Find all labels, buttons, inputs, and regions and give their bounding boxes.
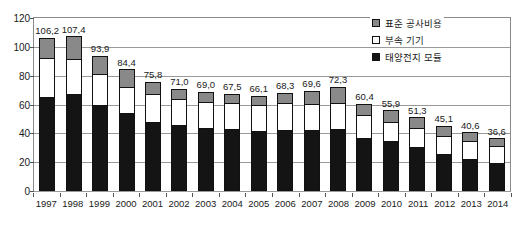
bar-total-label: 45,1 (435, 114, 454, 124)
bar-total-label: 84,4 (117, 58, 136, 68)
x-tick-label: 1999 (86, 193, 113, 215)
bar-segment-module (330, 129, 346, 191)
legend-label-standard: 표준 공사비용 (385, 16, 442, 30)
bar-slot: 106,2 (34, 18, 60, 191)
bar-stack[interactable]: 68,3 (277, 93, 293, 191)
legend-item-standard[interactable]: 표준 공사비용 (370, 16, 444, 30)
black-square-icon (372, 53, 380, 61)
x-tick-mark (378, 193, 379, 197)
bar-segment-standard (409, 117, 425, 128)
legend-item-module[interactable]: 태양전지 모듈 (370, 50, 444, 64)
bar-stack[interactable]: 69,6 (304, 91, 320, 191)
bar-stack[interactable]: 69,0 (198, 92, 214, 191)
bar-segment-accessory (145, 94, 161, 121)
bar-segment-accessory (330, 103, 346, 129)
bar-slot: 68,3 (272, 18, 298, 191)
bar-segment-standard (119, 69, 135, 87)
bar-stack[interactable]: 107,4 (66, 36, 82, 191)
bar-segment-accessory (66, 59, 82, 94)
x-tick-label: 2009 (352, 193, 379, 215)
bar-segment-module (356, 138, 372, 191)
bar-segment-standard (39, 38, 55, 58)
bar-stack[interactable]: 72,3 (330, 87, 346, 191)
x-tick-label: 1997 (33, 193, 60, 215)
x-tick-mark (139, 193, 140, 197)
bar-segment-module (383, 141, 399, 191)
gray-square-icon (372, 19, 380, 27)
bar-segment-accessory (39, 58, 55, 97)
bar-stack[interactable]: 67,5 (224, 94, 240, 191)
bar-segment-standard (277, 93, 293, 104)
x-tick-mark (60, 193, 61, 197)
bar-stack[interactable]: 66,1 (251, 96, 267, 191)
x-tick-mark (219, 193, 220, 197)
x-tick-label: 1998 (60, 193, 87, 215)
white-square-icon (372, 36, 380, 44)
bar-segment-accessory (251, 105, 267, 132)
legend-label-module: 태양전지 모듈 (385, 50, 442, 64)
bar-segment-module (198, 128, 214, 191)
bar-segment-module (39, 97, 55, 191)
x-tick-mark (511, 193, 512, 197)
legend: 표준 공사비용 부속 기기 태양전지 모듈 (370, 16, 444, 64)
x-tick-mark (431, 193, 432, 197)
bar-segment-accessory (356, 115, 372, 138)
bar-slot: 71,0 (166, 18, 192, 191)
bar-total-label: 71,0 (170, 77, 189, 87)
bar-segment-standard (224, 94, 240, 103)
bar-total-label: 93,9 (91, 44, 110, 54)
bar-stack[interactable]: 75,8 (145, 82, 161, 191)
x-tick-mark (113, 193, 114, 197)
x-tick-label: 2006 (272, 193, 299, 215)
bar-segment-module (489, 163, 505, 191)
bar-total-label: 72,3 (329, 75, 348, 85)
x-tick-label: 2008 (325, 193, 352, 215)
bar-stack[interactable]: 51,3 (409, 117, 425, 191)
bar-segment-module (171, 125, 187, 191)
x-axis: 1997199819992000200120022003200420052006… (33, 193, 511, 215)
bar-total-label: 75,8 (144, 70, 163, 80)
bar-stack[interactable]: 93,9 (92, 56, 108, 191)
bar-segment-module (462, 159, 478, 191)
bar-slot: 84,4 (113, 18, 139, 191)
x-tick-mark (86, 193, 87, 197)
bar-stack[interactable]: 84,4 (119, 69, 135, 191)
bar-segment-module (251, 131, 267, 191)
bar-stack[interactable]: 36,6 (489, 138, 505, 191)
bar-stack[interactable]: 60,4 (356, 104, 372, 191)
bar-total-label: 106,2 (35, 26, 59, 36)
bar-total-label: 51,3 (408, 106, 427, 116)
bar-segment-standard (171, 89, 187, 100)
bar-segment-module (277, 130, 293, 191)
bar-stack[interactable]: 45,1 (436, 126, 452, 191)
x-tick-label: 2000 (113, 193, 140, 215)
bar-segment-standard (198, 92, 214, 102)
bar-segment-accessory (224, 103, 240, 129)
legend-item-accessory[interactable]: 부속 기기 (370, 33, 444, 47)
bar-total-label: 66,1 (249, 84, 268, 94)
bar-slot: 69,0 (193, 18, 219, 191)
x-tick-mark (484, 193, 485, 197)
x-tick-mark (352, 193, 353, 197)
x-tick-mark (458, 193, 459, 197)
bar-stack[interactable]: 55,9 (383, 110, 399, 191)
x-tick-mark (33, 193, 34, 197)
stacked-bar-chart: 020406080100120 106,2107,493,984,475,871… (0, 0, 521, 228)
bar-stack[interactable]: 40,6 (462, 132, 478, 191)
bar-slot: 75,8 (140, 18, 166, 191)
y-tick-mark (30, 191, 34, 192)
bar-segment-module (119, 113, 135, 191)
x-tick-label: 2011 (405, 193, 432, 215)
x-tick-label: 2010 (378, 193, 405, 215)
legend-label-accessory: 부속 기기 (385, 33, 424, 47)
bar-segment-module (66, 94, 82, 191)
x-tick-label: 2001 (139, 193, 166, 215)
bar-stack[interactable]: 106,2 (39, 38, 55, 191)
x-tick-mark (166, 193, 167, 197)
bar-stack[interactable]: 71,0 (171, 89, 187, 191)
x-tick-label: 2002 (166, 193, 193, 215)
bar-segment-module (92, 105, 108, 192)
bar-segment-module (304, 130, 320, 191)
x-tick-label: 2013 (458, 193, 485, 215)
bar-total-label: 36,6 (487, 127, 506, 137)
